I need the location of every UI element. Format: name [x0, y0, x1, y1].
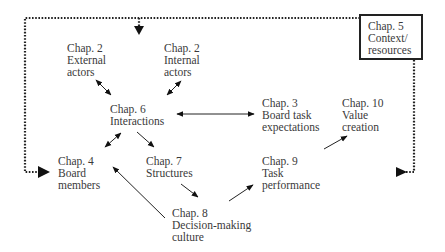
- node-label: culture: [172, 231, 251, 243]
- node-label: Decision-making: [172, 219, 251, 231]
- node-title: Chap. 9: [262, 155, 320, 167]
- node-label: members: [58, 179, 100, 191]
- node-ch2-internal: Chap. 2 Internal actors: [164, 42, 200, 78]
- node-title: Chap. 5: [368, 20, 411, 32]
- node-title: Chap. 3: [262, 97, 319, 109]
- node-label: Board task: [262, 109, 319, 121]
- dotted-line-to-value-creation: [398, 60, 414, 172]
- node-label: resources: [368, 44, 411, 56]
- arrow-interactions-boardmembers: [105, 133, 121, 147]
- node-ch8-decision-making: Chap. 8 Decision-making culture: [172, 207, 251, 243]
- node-label: External: [67, 54, 106, 66]
- node-label: Board: [58, 167, 100, 179]
- node-ch6-interactions: Chap. 6 Interactions: [110, 103, 164, 127]
- node-label: Task: [262, 167, 320, 179]
- node-label: performance: [262, 179, 320, 191]
- node-label: Value: [342, 109, 384, 121]
- node-label: actors: [67, 66, 106, 78]
- node-label: Interactions: [110, 115, 164, 127]
- node-label: Context/: [368, 32, 411, 44]
- arrow-internal-interactions: [167, 81, 181, 95]
- node-label: expectations: [262, 121, 319, 133]
- node-title: Chap. 2: [67, 42, 106, 54]
- arrow-structures-decisionmaking: [181, 184, 198, 197]
- arrow-interactions-structures: [137, 132, 154, 147]
- node-ch10-value: Chap. 10 Value creation: [342, 97, 384, 133]
- arrowhead-down-icon: [134, 26, 144, 35]
- arrow-taskperformance-valuecreation: [324, 136, 347, 149]
- node-title: Chap. 8: [172, 207, 251, 219]
- node-title: Chap. 4: [58, 155, 100, 167]
- node-ch4-board-members: Chap. 4 Board members: [58, 155, 100, 191]
- node-label: Internal: [164, 54, 200, 66]
- node-label: creation: [342, 121, 384, 133]
- arrow-external-interactions: [96, 80, 111, 95]
- node-label: actors: [164, 66, 200, 78]
- node-label: Structures: [146, 167, 193, 179]
- node-title: Chap. 7: [146, 155, 193, 167]
- node-ch3-board-task: Chap. 3 Board task expectations: [262, 97, 319, 133]
- arrowhead-right-icon: [38, 166, 50, 178]
- node-ch7-structures: Chap. 7 Structures: [146, 155, 193, 179]
- node-ch9-task-performance: Chap. 9 Task performance: [262, 155, 320, 191]
- governance-diagram: Chap. 2 External actors Chap. 2 Internal…: [0, 0, 445, 252]
- node-ch2-external: Chap. 2 External actors: [67, 42, 106, 78]
- node-title: Chap. 6: [110, 103, 164, 115]
- node-title: Chap. 10: [342, 97, 384, 109]
- arrowhead-right-icon: [396, 167, 407, 177]
- arrow-decisionmaking-taskperformance: [229, 185, 253, 201]
- node-title: Chap. 2: [164, 42, 200, 54]
- node-ch5-context: Chap. 5 Context/ resources: [368, 20, 411, 56]
